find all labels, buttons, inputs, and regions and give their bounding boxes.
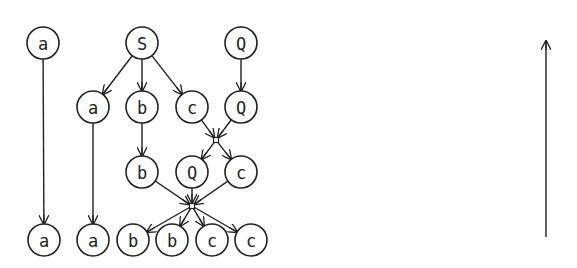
node-label: a: [88, 98, 98, 118]
edges: [43, 56, 241, 232]
junction-point: [214, 138, 219, 143]
edge-arrow: [218, 142, 231, 159]
edge-arrow: [43, 59, 44, 224]
node-label: c: [207, 231, 217, 251]
node-c: c: [196, 224, 228, 256]
node-a: a: [28, 224, 60, 256]
node-b: b: [126, 91, 158, 123]
edge-arrow: [152, 56, 182, 95]
node-label: b: [128, 231, 138, 251]
edge-arrow: [218, 120, 232, 138]
node-q: Q: [225, 91, 257, 123]
node-q: Q: [176, 156, 208, 188]
node-b: b: [126, 156, 158, 188]
node-label: Q: [236, 98, 246, 118]
node-label: b: [137, 98, 147, 118]
node-s: S: [126, 27, 158, 59]
node-label: Q: [236, 34, 246, 54]
node-b: b: [156, 224, 188, 256]
node-label: a: [39, 231, 49, 251]
node-label: S: [137, 34, 147, 54]
node-c: c: [235, 224, 267, 256]
edge-arrow: [103, 56, 133, 95]
node-label: c: [246, 231, 256, 251]
node-label: c: [236, 163, 246, 183]
node-c: c: [176, 91, 208, 123]
node-label: b: [137, 163, 147, 183]
derivation-diagram: aSQabcQbQcaabbcc: [0, 0, 577, 268]
node-b: b: [117, 224, 149, 256]
node-a: a: [77, 224, 109, 256]
node-label: a: [88, 231, 98, 251]
node-label: Q: [187, 163, 197, 183]
node-label: b: [167, 231, 177, 251]
edge-arrow: [201, 120, 214, 138]
node-q: Q: [225, 27, 257, 59]
node-c: c: [225, 156, 257, 188]
node-a: a: [77, 91, 109, 123]
node-label: c: [187, 98, 197, 118]
node-a: a: [27, 27, 59, 59]
nodes: aSQabcQbQcaabbcc: [27, 27, 267, 256]
junction-point: [190, 204, 195, 209]
edge-arrow: [202, 142, 215, 159]
node-label: a: [38, 34, 48, 54]
